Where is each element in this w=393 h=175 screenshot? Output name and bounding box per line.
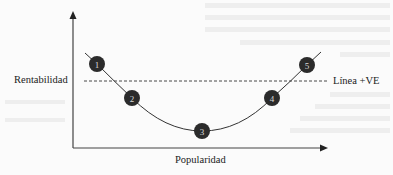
x-axis-arrow-icon <box>320 145 328 152</box>
x-axis-label: Popularidad <box>175 155 226 166</box>
marker-5: 5 <box>299 57 315 73</box>
u-curve <box>85 52 321 131</box>
marker-2: 2 <box>124 90 140 106</box>
marker-4: 4 <box>264 90 280 106</box>
svg-text:1: 1 <box>95 60 100 70</box>
svg-text:4: 4 <box>270 94 275 104</box>
marker-3: 3 <box>194 123 210 139</box>
marker-1: 1 <box>89 56 105 72</box>
y-axis-arrow-icon <box>70 11 77 19</box>
threshold-line-label: Línea +VE <box>333 76 379 87</box>
y-axis-label: Rentabilidad <box>14 75 68 86</box>
svg-text:2: 2 <box>130 94 135 104</box>
svg-text:5: 5 <box>305 61 310 71</box>
svg-text:3: 3 <box>200 127 205 137</box>
profitability-popularity-diagram: 1 2 3 4 5 <box>0 0 393 175</box>
